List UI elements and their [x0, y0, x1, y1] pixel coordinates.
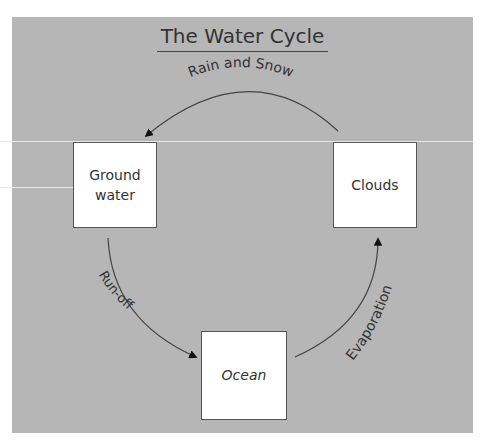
- node-ground-water: Ground water: [73, 142, 157, 228]
- node-ocean-label: Ocean: [222, 365, 267, 385]
- label-evaporation: Evaporation: [343, 283, 395, 363]
- node-clouds: Clouds: [333, 142, 417, 228]
- node-ground-water-label: Ground water: [89, 165, 141, 206]
- arrow-rain-and-snow: [146, 92, 338, 136]
- node-clouds-label: Clouds: [351, 175, 398, 195]
- node-ocean: Ocean: [201, 331, 287, 420]
- label-run-off: Run-off: [96, 268, 137, 313]
- label-rain-and-snow: Rain and Snow: [186, 54, 296, 80]
